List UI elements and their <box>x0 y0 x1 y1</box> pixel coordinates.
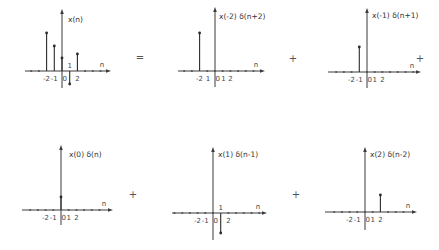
zero-sample-dot <box>173 212 175 214</box>
zero-sample-dot <box>206 70 208 72</box>
zero-sample-dot <box>91 209 93 211</box>
tick-label: 1 <box>218 204 222 212</box>
stem-marker <box>61 57 64 60</box>
zero-sample-dot <box>52 209 54 211</box>
tick-label: 0 <box>213 217 217 225</box>
zero-sample-dot <box>214 70 216 72</box>
tick-label: -2 <box>42 214 49 222</box>
zero-sample-dot <box>381 71 383 73</box>
diagram-canvas: -2-1012nx(n)-21012nx(-2) δ(n+2)-2-1012nx… <box>0 0 439 250</box>
arrow-up-icon <box>213 7 217 12</box>
zero-sample-dot <box>387 211 389 213</box>
zero-sample-dot <box>366 71 368 73</box>
zero-sample-dot <box>351 71 353 73</box>
zero-sample-dot <box>45 209 47 211</box>
stem-marker <box>219 232 222 235</box>
stem-marker <box>68 83 71 86</box>
zero-sample-dot <box>84 70 86 72</box>
plot-title: x(-1) δ(n+1) <box>372 11 418 20</box>
zero-sample-dot <box>197 212 199 214</box>
arrow-right-icon <box>260 69 265 73</box>
stem-marker <box>45 32 48 35</box>
zero-sample-dot <box>229 70 231 72</box>
tick-label: 2 <box>75 75 79 83</box>
axis-variable-label: n <box>406 202 410 210</box>
zero-sample-dot <box>75 209 77 211</box>
zero-sample-dot <box>235 212 237 214</box>
zero-sample-dot <box>99 70 101 72</box>
zero-sample-dot <box>397 71 399 73</box>
stem-plot-x-0-delta: -2-1012nx(0) δ(n) <box>22 145 113 225</box>
zero-sample-dot <box>349 211 351 213</box>
plus-sign: + <box>129 189 137 200</box>
zero-sample-dot <box>395 211 397 213</box>
tick-label: 2 <box>378 216 382 224</box>
tick-label: 1 <box>206 75 210 83</box>
arrow-up-icon <box>365 8 369 13</box>
tick-label: 1 <box>370 216 374 224</box>
tick-label: 0 <box>62 75 66 83</box>
plot-title: x(1) δ(n-1) <box>218 150 258 159</box>
zero-sample-dot <box>222 70 224 72</box>
tick-label: 2 <box>380 76 384 84</box>
tick-label: 2 <box>74 214 78 222</box>
plus-sign: + <box>416 53 424 64</box>
zero-sample-dot <box>252 70 254 72</box>
axis-variable-label: n <box>256 203 260 211</box>
tick-label: -2 <box>348 76 355 84</box>
arrow-right-icon <box>262 211 267 215</box>
tick-label: 2 <box>226 217 230 225</box>
zero-sample-dot <box>29 209 31 211</box>
plus-sign: + <box>289 53 297 64</box>
arrow-up-icon <box>363 147 367 152</box>
tick-label: 1 <box>221 75 225 83</box>
arrow-up-icon <box>211 147 215 152</box>
tick-label: -2 <box>346 216 353 224</box>
axis-variable-label: n <box>100 61 104 69</box>
stem-marker <box>60 196 63 199</box>
zero-sample-dot <box>30 70 32 72</box>
zero-sample-dot <box>243 212 245 214</box>
zero-sample-dot <box>245 70 247 72</box>
tick-label: 0 <box>367 76 371 84</box>
impulse-decomposition-diagram: -2-1012nx(n)-21012nx(-2) δ(n+2)-2-1012nx… <box>0 0 439 250</box>
tick-label: -1 <box>50 214 57 222</box>
zero-sample-dot <box>343 71 345 73</box>
tick-label: -2 <box>43 75 50 83</box>
tick-label: 0 <box>61 214 65 222</box>
zero-sample-dot <box>92 70 94 72</box>
arrow-right-icon <box>416 70 421 74</box>
stem-marker <box>358 46 361 49</box>
zero-sample-dot <box>83 209 85 211</box>
tick-label: -2 <box>196 75 203 83</box>
tick-label: -1 <box>354 216 361 224</box>
zero-sample-dot <box>258 212 260 214</box>
equals-sign: = <box>136 52 144 63</box>
tick-label: -1 <box>356 76 363 84</box>
zero-sample-dot <box>356 211 358 213</box>
stem-marker <box>379 194 382 197</box>
axis-variable-label: n <box>410 62 414 70</box>
zero-sample-dot <box>191 70 193 72</box>
zero-sample-dot <box>38 70 40 72</box>
tick-label: -2 <box>194 217 201 225</box>
tick-label: 1 <box>372 76 376 84</box>
plot-title: x(n) <box>68 15 83 24</box>
arrow-up-icon <box>59 145 63 150</box>
arrow-right-icon <box>106 69 111 73</box>
axis-variable-label: n <box>254 61 258 69</box>
tick-label: 2 <box>228 75 232 83</box>
zero-sample-dot <box>227 212 229 214</box>
stem-plot-x-m1-delta: -2-1012nx(-1) δ(n+1) <box>328 8 421 88</box>
zero-sample-dot <box>204 212 206 214</box>
tick-label: 0 <box>365 216 369 224</box>
zero-sample-dot <box>98 209 100 211</box>
tick-label: -1 <box>51 75 58 83</box>
zero-sample-dot <box>212 212 214 214</box>
zero-sample-dot <box>389 71 391 73</box>
zero-sample-dot <box>374 71 376 73</box>
stem-marker <box>53 45 56 48</box>
tick-label: 1 <box>66 214 70 222</box>
zero-sample-dot <box>237 70 239 72</box>
arrow-right-icon <box>108 208 113 212</box>
